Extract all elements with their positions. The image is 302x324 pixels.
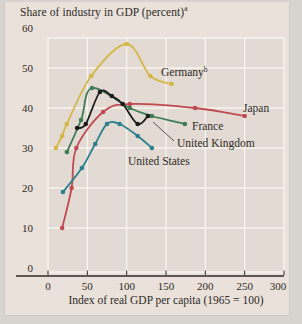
data-point-japan (69, 186, 74, 191)
y-tick-label: 40 (22, 102, 34, 114)
chart-title: Share of industry in GDP (percent)a (20, 6, 188, 18)
data-point-japan (101, 110, 106, 115)
series-label-footnote-marker: b (204, 65, 208, 74)
x-tick-label: 0 (45, 280, 51, 292)
data-point-france (90, 86, 95, 91)
data-point-united-kingdom (135, 122, 140, 127)
data-point-france (65, 150, 70, 155)
chart-title-footnote-marker: a (184, 4, 187, 13)
x-tick-label: 100 (118, 280, 135, 292)
data-point-japan (242, 114, 247, 119)
data-point-united-kingdom (75, 126, 80, 131)
y-tick-label: 60 (22, 22, 34, 34)
data-point-france (79, 118, 84, 123)
data-point-united-kingdom (109, 94, 114, 99)
data-point-germany (148, 74, 153, 79)
data-point-united-states (80, 166, 85, 171)
data-point-united-states (61, 190, 66, 195)
x-tick-label: 250 (236, 280, 253, 292)
y-tick-label: 10 (22, 222, 34, 234)
data-point-germany (65, 122, 70, 127)
data-point-germany (60, 134, 65, 139)
data-point-germany (89, 74, 94, 79)
series-label-united-states: United States (128, 155, 190, 167)
data-point-japan (193, 106, 198, 111)
data-point-france (128, 106, 133, 111)
data-point-united-kingdom (83, 122, 88, 127)
y-tick-label: 30 (22, 142, 34, 154)
y-tick-label: 20 (22, 182, 34, 194)
x-tick-label: 200 (197, 280, 214, 292)
data-point-germany (54, 146, 59, 151)
x-tick-label: 50 (82, 280, 94, 292)
industry-share-line-chart: GermanybJapanFranceUnited KingdomUnited … (0, 0, 302, 324)
y-tick-label: 0 (28, 262, 34, 274)
data-point-france (183, 122, 188, 127)
data-point-united-states (117, 122, 122, 127)
data-point-germany (169, 82, 174, 87)
data-point-united-kingdom (120, 102, 125, 107)
series-label-japan: Japan (243, 102, 269, 115)
data-point-united-kingdom (98, 90, 103, 95)
series-label-germany: Germanyb (161, 65, 208, 79)
data-point-germany (124, 42, 129, 47)
x-tick-label: 300 (270, 280, 287, 292)
data-point-united-kingdom (146, 114, 151, 119)
data-point-japan (128, 102, 133, 107)
data-point-united-states (135, 134, 140, 139)
x-axis-title: Index of real GDP per capita (1965 = 100… (48, 294, 284, 306)
data-point-united-states (150, 146, 155, 151)
data-point-japan (60, 226, 65, 231)
data-point-france (150, 114, 155, 119)
data-point-united-states (105, 122, 110, 127)
chart-title-text: Share of industry in GDP (percent) (20, 6, 184, 18)
data-point-united-states (93, 142, 98, 147)
x-tick-label: 150 (158, 280, 175, 292)
data-point-japan (74, 146, 79, 151)
series-label-france: France (192, 120, 223, 132)
y-tick-label: 50 (22, 62, 34, 74)
series-label-united-kingdom: United Kingdom (177, 137, 255, 150)
